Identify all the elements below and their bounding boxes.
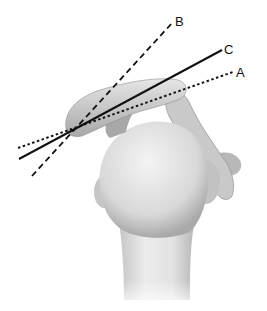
label-b: B (175, 14, 184, 29)
label-a: A (236, 65, 245, 80)
humerus (94, 122, 220, 311)
shoulder-diagram: A B C (0, 0, 267, 311)
label-c: C (224, 42, 233, 57)
